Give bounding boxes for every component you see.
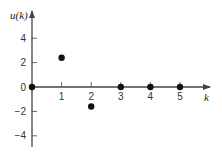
x-tick-label: 3 — [118, 91, 124, 102]
data-points — [29, 55, 183, 110]
stem-chart: 12345420−2−4 u(k) k — [0, 0, 222, 152]
axes — [32, 11, 210, 147]
data-point — [147, 84, 153, 90]
x-tick-label: 5 — [177, 91, 183, 102]
x-tick-label: 2 — [88, 91, 94, 102]
y-tick-label: 0 — [20, 82, 26, 93]
data-point — [88, 103, 94, 109]
x-tick-label: 4 — [148, 91, 154, 102]
y-tick-label: 4 — [20, 33, 26, 44]
x-axis-label: k — [204, 91, 210, 103]
y-tick-label: −4 — [15, 130, 27, 141]
y-axis-label: u(k) — [10, 9, 28, 22]
data-point — [29, 84, 35, 90]
data-point — [177, 84, 183, 90]
data-point — [58, 55, 64, 61]
data-point — [118, 84, 124, 90]
y-tick-label: 2 — [20, 57, 26, 68]
y-tick-label: −2 — [15, 106, 27, 117]
x-tick-label: 1 — [59, 91, 65, 102]
